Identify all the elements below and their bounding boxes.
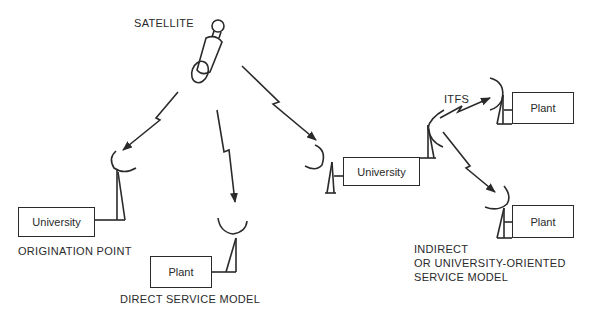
- itfs-label: ITFS: [444, 93, 469, 105]
- beam-to-indirect-plant-bottom: [443, 132, 495, 192]
- satellite-distribution-diagram: SATELLITE University ORIGINATION POINT P…: [0, 0, 594, 319]
- direct-caption: DIRECT SERVICE MODEL: [120, 293, 260, 305]
- direct-plant-box: Plant: [150, 256, 212, 288]
- indirect-plant-bottom-dish-icon: [485, 186, 512, 238]
- direct-plant-dish-icon: [212, 218, 247, 272]
- indirect-caption-line-3: SERVICE MODEL: [414, 270, 566, 284]
- indirect-caption: INDIRECT OR UNIVERSITY-ORIENTED SERVICE …: [414, 242, 566, 284]
- indirect-plant-top-dish-icon: [490, 78, 512, 124]
- origination-university-box: University: [18, 207, 95, 237]
- beam-to-university-hub: [242, 66, 316, 140]
- indirect-caption-line-1: INDIRECT: [414, 242, 566, 256]
- satellite-label: SATELLITE: [134, 17, 194, 29]
- origination-dish-icon: [95, 151, 136, 220]
- beam-to-direct-plant: [217, 110, 235, 202]
- indirect-university-hub-box: University: [343, 157, 420, 186]
- indirect-plant-bottom-box: Plant: [512, 205, 574, 238]
- indirect-caption-line-2: OR UNIVERSITY-ORIENTED: [414, 256, 566, 270]
- hub-receive-dish-icon: [305, 145, 343, 193]
- indirect-plant-top-box: Plant: [512, 92, 574, 124]
- satellite-icon: [189, 20, 224, 85]
- origination-caption: ORIGINATION POINT: [18, 245, 132, 257]
- beam-to-origination: [123, 92, 178, 150]
